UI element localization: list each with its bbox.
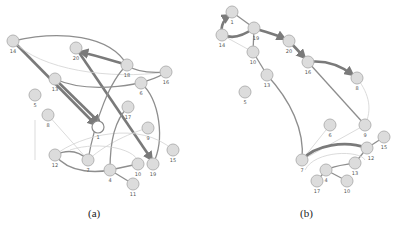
svg-text:13: 13 [352, 170, 358, 176]
svg-text:14: 14 [219, 42, 225, 48]
svg-text:10: 10 [344, 188, 350, 194]
svg-text:12: 12 [52, 162, 58, 168]
svg-text:20: 20 [73, 55, 79, 61]
svg-text:1: 1 [96, 134, 99, 140]
svg-text:4: 4 [108, 177, 111, 183]
svg-text:19: 19 [150, 171, 156, 177]
panel-b-caption: (b) [300, 207, 313, 219]
svg-text:12: 12 [368, 155, 374, 161]
svg-text:17: 17 [314, 188, 320, 194]
svg-text:15: 15 [381, 144, 387, 150]
svg-text:15: 15 [170, 157, 176, 163]
svg-text:10: 10 [250, 59, 256, 65]
svg-text:11: 11 [130, 191, 136, 197]
svg-text:16: 16 [163, 79, 169, 85]
panel-a-caption: (a) [88, 207, 100, 219]
svg-text:13: 13 [264, 82, 270, 88]
svg-text:7: 7 [300, 167, 303, 173]
graph-figure: 14 20 18 16 13 6 5 17 8 1 9 15 12 7 4 10… [0, 0, 395, 226]
svg-text:6: 6 [328, 132, 331, 138]
svg-text:8: 8 [46, 122, 49, 128]
svg-text:8: 8 [355, 85, 358, 91]
svg-text:5: 5 [33, 102, 36, 108]
svg-text:7: 7 [86, 167, 89, 173]
svg-text:10: 10 [135, 171, 141, 177]
svg-text:5: 5 [243, 99, 246, 105]
svg-text:6: 6 [139, 90, 142, 96]
svg-text:16: 16 [305, 69, 311, 75]
svg-text:17: 17 [125, 114, 131, 120]
svg-text:1: 1 [230, 19, 233, 25]
svg-text:20: 20 [286, 48, 292, 54]
svg-text:19: 19 [253, 35, 259, 41]
svg-text:9: 9 [363, 132, 366, 138]
svg-text:4: 4 [324, 177, 327, 183]
svg-text:9: 9 [146, 135, 149, 141]
svg-text:14: 14 [10, 48, 16, 54]
svg-text:13: 13 [52, 86, 58, 92]
svg-text:18: 18 [124, 72, 130, 78]
